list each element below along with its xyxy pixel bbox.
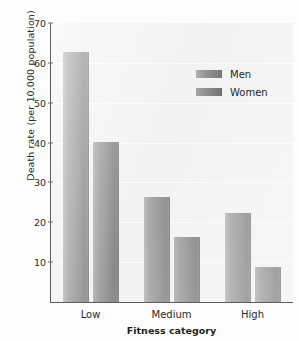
y-tick-mark — [48, 142, 53, 143]
y-tick-mark — [48, 23, 53, 24]
bar-high-women — [255, 267, 281, 302]
bar-high-men — [225, 213, 251, 302]
x-tick-label-low: Low — [51, 309, 131, 320]
legend-label-women: Women — [230, 87, 268, 98]
legend-label-men: Men — [230, 69, 251, 80]
y-tick-mark — [48, 102, 53, 103]
y-tick-mark — [48, 182, 53, 183]
y-axis-ticks: 10203040506070 — [22, 0, 46, 341]
y-tick-mark — [48, 222, 53, 223]
y-tick-label: 40 — [24, 137, 46, 148]
y-tick-label: 10 — [24, 257, 46, 268]
legend-item-men: Men — [196, 66, 268, 82]
bar-low-women — [93, 142, 119, 302]
y-tick-label: 30 — [24, 177, 46, 188]
bar-medium-men — [144, 197, 170, 302]
x-tick-label-medium: Medium — [132, 309, 212, 320]
y-tick-mark — [48, 262, 53, 263]
bar-chart-figure: Death rate (per 10,000 population) 10203… — [0, 0, 299, 341]
x-axis-label: Fitness category — [50, 325, 293, 336]
y-tick-label: 60 — [24, 57, 46, 68]
y-tick-mark — [48, 62, 53, 63]
y-tick-label: 50 — [24, 97, 46, 108]
legend-swatch-men — [196, 70, 222, 78]
y-tick-label: 70 — [24, 18, 46, 29]
bar-low-men — [63, 52, 89, 302]
legend-item-women: Women — [196, 84, 268, 100]
bar-medium-women — [174, 237, 200, 302]
plot-area — [50, 23, 293, 302]
chart-legend: MenWomen — [196, 66, 268, 102]
x-tick-label-high: High — [213, 309, 293, 320]
legend-swatch-women — [196, 88, 222, 96]
x-axis-spine — [50, 302, 293, 303]
y-tick-label: 20 — [24, 217, 46, 228]
